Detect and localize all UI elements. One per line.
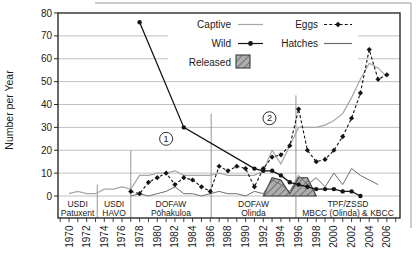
x-tick-label-1990: 1990 xyxy=(240,225,251,248)
wild-marker-2003 xyxy=(358,194,362,198)
eggs-marker-1996 xyxy=(296,106,301,111)
facility-label-4-line2: Olinda xyxy=(241,208,266,218)
legend-label-hatches: Hatches xyxy=(281,38,318,49)
y-tick-label-0: 0 xyxy=(46,191,52,202)
eggs-marker-1994 xyxy=(278,152,283,157)
x-tick-label-1994: 1994 xyxy=(275,225,286,248)
legend: Captive Eggs Wild Hatches Released xyxy=(168,15,358,71)
series-captive-line xyxy=(69,63,387,193)
wild-marker-1996 xyxy=(296,182,300,186)
x-tick-label-1974: 1974 xyxy=(99,225,110,248)
figure: USDIPatuxentUSDIHAVODOFAWPōhakuloaDOFAWO… xyxy=(0,0,416,264)
wild-marker-1983 xyxy=(182,125,186,129)
eggs-marker-1988 xyxy=(225,168,230,173)
y-tick-label-10: 10 xyxy=(41,168,53,179)
legend-sample-wild-circle-icon xyxy=(248,41,253,46)
x-tick-label-1980: 1980 xyxy=(152,225,163,248)
eggs-marker-1977 xyxy=(128,189,133,194)
x-tick-label-1992: 1992 xyxy=(258,225,269,248)
eggs-marker-1980 xyxy=(155,175,160,180)
facility-label-1-line1: USDI xyxy=(67,199,87,209)
y-axis-title: Number per Year xyxy=(3,70,15,150)
x-tick-label-2002: 2002 xyxy=(346,225,357,248)
annotations-layer: 12 xyxy=(160,112,276,146)
eggs-marker-1985 xyxy=(199,184,204,189)
eggs-marker-1987 xyxy=(217,164,222,169)
legend-label-eggs: Eggs xyxy=(295,19,318,30)
wild-marker-2000 xyxy=(332,187,336,191)
facility-label-5-line2: MBCC (Olinda) & KBCC xyxy=(302,208,394,218)
wild-marker-1993 xyxy=(270,169,274,173)
legend-label-wild: Wild xyxy=(212,38,231,49)
facility-label-2-line1: USDI xyxy=(104,199,124,209)
y-tick-label-30: 30 xyxy=(41,122,53,133)
x-tick-label-1988: 1988 xyxy=(222,225,233,248)
facility-label-2-line2: HAVO xyxy=(102,208,126,218)
wild-marker-1998 xyxy=(314,187,318,191)
y-tick-label-40: 40 xyxy=(41,99,53,110)
x-tick-label-1998: 1998 xyxy=(311,225,322,248)
eggs-marker-1981 xyxy=(164,171,169,176)
eggs-marker-2005 xyxy=(375,77,380,82)
x-tick-label-1972: 1972 xyxy=(81,225,92,248)
annotation-number-2: 2 xyxy=(267,113,272,123)
facility-label-4-line1: DOFAW xyxy=(238,199,269,209)
y-tick-label-70: 70 xyxy=(41,30,53,41)
x-tick-label-1976: 1976 xyxy=(116,225,127,248)
legend-sample-released-swatch-icon xyxy=(236,55,250,68)
x-tick-label-2000: 2000 xyxy=(328,225,339,248)
x-tick-label-1970: 1970 xyxy=(64,225,75,248)
x-tick-label-2006: 2006 xyxy=(381,225,392,248)
x-tick-label-1996: 1996 xyxy=(293,225,304,248)
wild-marker-1994 xyxy=(279,173,283,177)
wild-marker-1978 xyxy=(137,20,141,24)
eggs-marker-1991 xyxy=(252,184,257,189)
legend-label-captive: Captive xyxy=(197,19,231,30)
legend-label-released: Released xyxy=(189,57,231,68)
facility-label-3-line2: Pōhakuloa xyxy=(151,208,191,218)
facility-label-3-line1: DOFAW xyxy=(156,199,187,209)
y-tick-label-60: 60 xyxy=(41,53,53,64)
eggs-marker-1999 xyxy=(322,157,327,162)
eggs-marker-1990 xyxy=(243,166,248,171)
facility-label-5-line1: TPF/ZSSD xyxy=(327,199,368,209)
eggs-marker-2003 xyxy=(358,90,363,95)
eggs-marker-2004 xyxy=(367,47,372,52)
y-tick-label-80: 80 xyxy=(41,8,53,19)
x-tick-label-1986: 1986 xyxy=(205,225,216,248)
x-tick-label-2004: 2004 xyxy=(364,225,375,248)
x-tick-label-1984: 1984 xyxy=(187,225,198,248)
y-tick-label-20: 20 xyxy=(41,145,53,156)
wild-marker-1999 xyxy=(323,187,327,191)
eggs-marker-2002 xyxy=(349,116,354,121)
alala-numbers-per-year-chart: USDIPatuxentUSDIHAVODOFAWPōhakuloaDOFAWO… xyxy=(0,0,416,264)
eggs-marker-1982 xyxy=(172,182,177,187)
eggs-marker-2006 xyxy=(384,72,389,77)
x-tick-label-1978: 1978 xyxy=(134,225,145,248)
eggs-marker-1989 xyxy=(234,164,239,169)
facility-label-1-line2: Patuxent xyxy=(61,208,95,218)
wild-marker-1991 xyxy=(252,166,256,170)
wild-marker-1995 xyxy=(288,180,292,184)
wild-marker-2001 xyxy=(341,189,345,193)
annotation-number-1: 1 xyxy=(164,134,169,144)
wild-marker-2002 xyxy=(349,189,353,193)
y-tick-label-50: 50 xyxy=(41,76,53,87)
x-tick-label-1982: 1982 xyxy=(169,225,180,248)
wild-marker-1997 xyxy=(305,185,309,189)
